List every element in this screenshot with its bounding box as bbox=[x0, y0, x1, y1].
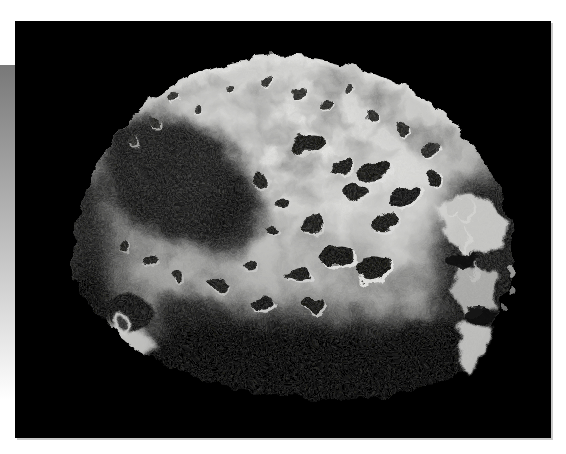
photo-frame bbox=[15, 21, 551, 438]
gradient-strip bbox=[0, 65, 15, 400]
gradient-strip-graphic bbox=[0, 65, 15, 400]
gradient-strip-rect bbox=[0, 65, 15, 400]
page-background bbox=[0, 0, 566, 454]
moon-photo bbox=[15, 21, 551, 438]
